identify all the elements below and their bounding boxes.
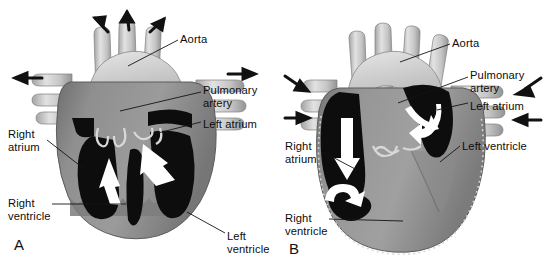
label-right-ventricle: Right ventricle [285, 212, 328, 237]
arrow-in-pulm-vein-lo [515, 115, 541, 125]
label-left-ventricle: Left ventricle [227, 230, 270, 255]
panel-a-ventricular-systole: Aorta Pulmonary artery Left atrium Right… [0, 0, 275, 261]
label-right-ventricle: Right ventricle [8, 197, 51, 222]
label-aorta: Aorta [452, 37, 479, 50]
label-right-atrium: Right atrium [8, 128, 40, 153]
label-pulmonary-artery: Pulmonary artery [470, 69, 524, 94]
panel-b-ventricular-diastole: Aorta Pulmonary artery Left atrium Left … [275, 0, 550, 261]
label-right-atrium: Right atrium [285, 140, 317, 165]
label-aorta: Aorta [180, 33, 207, 46]
label-left-atrium: Left atrium [203, 118, 257, 131]
interventricular-channel [126, 149, 143, 226]
label-left-ventricle: Left ventricle [462, 140, 527, 153]
panel-letter-a: A [14, 236, 24, 253]
cardiac-cycle-figure: Aorta Pulmonary artery Left atrium Right… [0, 0, 550, 261]
arrow-out-pulm-veins [228, 69, 255, 79]
panel-letter-b: B [289, 240, 299, 257]
label-left-atrium: Left atrium [470, 100, 524, 113]
label-pulmonary-artery: Pulmonary artery [203, 84, 257, 109]
leader-left-ventricle [187, 212, 225, 233]
